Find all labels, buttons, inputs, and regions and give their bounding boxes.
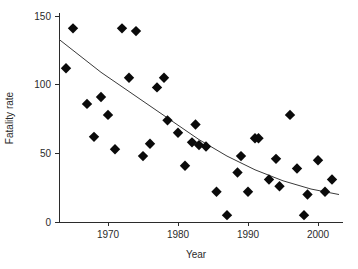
- data-point-marker: [131, 26, 141, 36]
- y-axis-ticks: 050100150: [34, 11, 59, 228]
- data-point-marker: [180, 160, 190, 170]
- x-tick-label: 1980: [167, 229, 190, 240]
- data-point-marker: [313, 155, 323, 165]
- data-point-marker: [201, 141, 211, 151]
- data-point-marker: [110, 144, 120, 154]
- data-point-marker: [292, 163, 302, 173]
- data-point-marker: [96, 92, 106, 102]
- data-point-marker: [89, 132, 99, 142]
- x-tick-label: 1970: [97, 229, 120, 240]
- data-point-marker: [320, 187, 330, 197]
- data-point-marker: [162, 115, 172, 125]
- data-point-marker: [302, 189, 312, 199]
- x-axis-title: Year: [186, 249, 207, 260]
- data-point-marker: [243, 187, 253, 197]
- data-point-marker: [145, 139, 155, 149]
- y-tick-label: 100: [34, 79, 51, 90]
- data-points: [61, 23, 337, 220]
- data-point-marker: [103, 110, 113, 120]
- y-tick-label: 150: [34, 11, 51, 22]
- data-point-marker: [299, 210, 309, 220]
- data-point-marker: [159, 73, 169, 83]
- x-tick-label: 1990: [237, 229, 260, 240]
- data-point-marker: [211, 187, 221, 197]
- data-point-marker: [274, 181, 284, 191]
- data-point-marker: [138, 151, 148, 161]
- y-axis-title: Fatality rate: [4, 91, 15, 144]
- data-point-marker: [285, 110, 295, 120]
- y-tick-label: 0: [45, 217, 51, 228]
- y-tick-label: 50: [40, 148, 52, 159]
- x-tick-label: 2000: [307, 229, 330, 240]
- data-point-marker: [68, 23, 78, 33]
- data-point-marker: [232, 167, 242, 177]
- data-point-marker: [82, 99, 92, 109]
- data-point-marker: [236, 151, 246, 161]
- data-point-marker: [61, 63, 71, 73]
- data-point-marker: [190, 119, 200, 129]
- data-point-marker: [222, 210, 232, 220]
- chart-figure: 050100150 1970198019902000 Year Fatality…: [0, 0, 358, 269]
- data-point-marker: [327, 174, 337, 184]
- data-point-marker: [271, 154, 281, 164]
- data-point-marker: [117, 23, 127, 33]
- scatter-plot: 050100150 1970198019902000 Year Fatality…: [0, 0, 358, 269]
- data-point-marker: [173, 128, 183, 138]
- data-point-marker: [124, 73, 134, 83]
- data-point-marker: [264, 174, 274, 184]
- x-axis-ticks: 1970198019902000: [97, 222, 330, 240]
- data-point-marker: [152, 82, 162, 92]
